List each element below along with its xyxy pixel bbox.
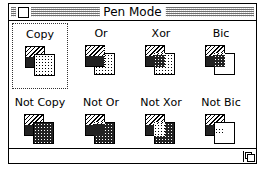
copy-mode-icon bbox=[25, 46, 57, 78]
mode-label: Xor bbox=[133, 27, 189, 40]
bic-mode-icon bbox=[205, 45, 237, 77]
pen-mode-window: Pen Mode Copy Or Xor bbox=[8, 3, 257, 164]
title-bar[interactable]: Pen Mode bbox=[9, 4, 256, 21]
pen-mode-grid: Copy Or Xor Bic bbox=[9, 21, 256, 150]
mode-label: Not Copy bbox=[12, 96, 68, 109]
mode-label: Copy bbox=[13, 28, 67, 41]
grow-box-icon[interactable] bbox=[243, 151, 255, 162]
mode-label: Not Or bbox=[73, 96, 129, 109]
mode-label: Bic bbox=[193, 27, 249, 40]
or-mode-icon bbox=[85, 45, 117, 77]
window-title: Pen Mode bbox=[99, 4, 165, 20]
xor-mode-icon bbox=[145, 45, 177, 77]
mode-label: Not Bic bbox=[193, 96, 249, 109]
mode-label: Or bbox=[73, 27, 129, 40]
close-box-icon[interactable] bbox=[18, 7, 29, 18]
pen-mode-or[interactable]: Or bbox=[73, 23, 129, 89]
not-copy-mode-icon bbox=[24, 114, 56, 146]
pen-mode-xor[interactable]: Xor bbox=[133, 23, 189, 89]
status-bar bbox=[9, 148, 256, 163]
not-bic-mode-icon bbox=[205, 114, 237, 146]
mode-label: Not Xor bbox=[133, 96, 189, 109]
not-or-mode-icon bbox=[85, 114, 117, 146]
pen-mode-copy[interactable]: Copy bbox=[12, 23, 68, 89]
not-xor-mode-icon bbox=[145, 114, 177, 146]
pen-mode-bic[interactable]: Bic bbox=[193, 23, 249, 89]
